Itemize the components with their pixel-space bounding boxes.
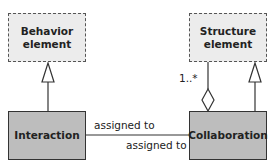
aggregation-diamond-icon bbox=[202, 89, 214, 111]
structure-element-node: Structure element bbox=[189, 13, 267, 62]
assigned-to-label-bottom: assigned to bbox=[126, 139, 187, 151]
behavior-element-label-line2: element bbox=[21, 38, 74, 51]
structure-element-label-line2: element bbox=[200, 38, 256, 51]
multiplicity-label: 1..* bbox=[179, 72, 198, 84]
diagram-canvas: Behavior element Structure element Inter… bbox=[0, 0, 276, 167]
collaboration-label: Collaboration bbox=[188, 129, 268, 142]
interaction-label: Interaction bbox=[14, 129, 79, 142]
assigned-to-label-top: assigned to bbox=[94, 119, 155, 131]
structure-element-label-line1: Structure bbox=[200, 25, 256, 38]
behavior-element-label-line1: Behavior bbox=[21, 25, 74, 38]
generalization-arrow-icon bbox=[249, 63, 261, 82]
behavior-element-node: Behavior element bbox=[8, 13, 86, 62]
interaction-node: Interaction bbox=[8, 111, 86, 160]
generalization-arrow-icon bbox=[42, 63, 54, 82]
collaboration-node: Collaboration bbox=[189, 111, 267, 160]
